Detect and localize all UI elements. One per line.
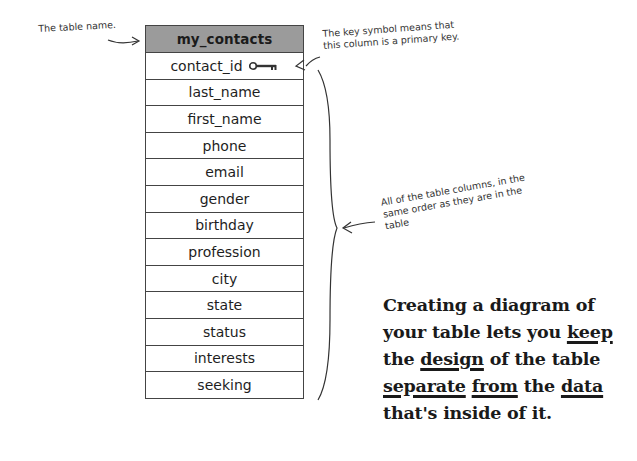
column-name: state [207, 297, 242, 313]
column-name: birthday [195, 217, 254, 233]
emphasized-word: data [561, 376, 603, 396]
column-name: contact_id [170, 58, 242, 74]
callout-fragment: Creating a diagram of your table lets yo… [383, 295, 594, 342]
column-name: profession [188, 244, 260, 260]
callout-fragment: the [383, 349, 420, 369]
emphasized-word: keep [567, 322, 613, 342]
table-diagram: my_contacts contact_idlast_namefirst_nam… [145, 25, 304, 399]
arrow-icon [108, 37, 139, 45]
table-name-header: my_contacts [146, 26, 303, 53]
column-name: interests [194, 350, 255, 366]
brace-icon [318, 70, 337, 400]
column-name: gender [200, 191, 250, 207]
column-row-birthday: birthday [146, 213, 303, 240]
column-name: status [203, 324, 246, 340]
column-name: last_name [189, 84, 261, 100]
arrow-icon [343, 222, 375, 233]
annotation-all-columns: All of the table columns, in the same or… [380, 171, 534, 233]
column-row-state: state [146, 292, 303, 319]
column-row-interests: interests [146, 346, 303, 373]
column-row-contact-id: contact_id [146, 53, 303, 80]
column-row-status: status [146, 319, 303, 346]
column-name: first_name [187, 111, 261, 127]
column-row-first-name: first_name [146, 106, 303, 133]
column-row-email: email [146, 159, 303, 186]
column-name: phone [203, 138, 247, 154]
column-name: seeking [197, 377, 251, 393]
callout-fragment: that's inside of it. [383, 403, 552, 423]
column-row-city: city [146, 266, 303, 293]
column-row-last-name: last_name [146, 80, 303, 107]
callout-fragment: the [518, 376, 561, 396]
column-name: city [212, 271, 237, 287]
key-icon [249, 61, 279, 71]
column-row-phone: phone [146, 133, 303, 160]
annotation-table-name: The table name. [38, 19, 116, 35]
callout-text: Creating a diagram of your table lets yo… [383, 292, 633, 427]
annotation-key-symbol: The key symbol means that this column is… [322, 18, 473, 52]
emphasized-word: from [472, 376, 518, 396]
column-row-gender: gender [146, 186, 303, 213]
emphasized-word: design [420, 349, 484, 369]
emphasized-word: separate [383, 376, 466, 396]
callout-fragment: of the table [484, 349, 600, 369]
column-row-profession: profession [146, 239, 303, 266]
column-name: email [205, 164, 244, 180]
column-list: contact_idlast_namefirst_namephoneemailg… [146, 53, 303, 398]
column-row-seeking: seeking [146, 372, 303, 398]
